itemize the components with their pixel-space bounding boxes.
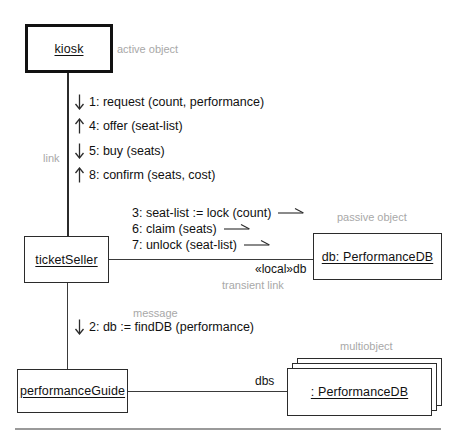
message-2: 2: db := findDB (performance) bbox=[74, 319, 254, 335]
message-8-label: 8: confirm (seats, cost) bbox=[89, 168, 215, 182]
annotation-link: link bbox=[43, 152, 60, 164]
arrow-up-icon bbox=[74, 167, 85, 183]
arrow-down-icon bbox=[74, 319, 85, 335]
arrow-down-icon bbox=[74, 143, 85, 159]
link-performanceguide-dbs bbox=[127, 391, 287, 392]
annotation-transient-link: transient link bbox=[222, 279, 284, 291]
message-3-label: 3: seat-list := lock (count) bbox=[132, 206, 271, 220]
message-5-label: 5: buy (seats) bbox=[89, 144, 165, 158]
annotation-passive-object: passive object bbox=[337, 211, 407, 223]
annotation-multiobject: multiobject bbox=[340, 340, 393, 352]
uml-collaboration-diagram: kiosk ticketSeller performanceGuide db: … bbox=[0, 0, 462, 437]
message-4-label: 4: offer (seat-list) bbox=[89, 119, 183, 133]
link-label-dbs: dbs bbox=[255, 374, 274, 388]
message-1-label: 1: request (count, performance) bbox=[89, 95, 264, 109]
message-4: 4: offer (seat-list) bbox=[74, 118, 183, 134]
object-performancedb-multiobject-label: : PerformanceDB bbox=[311, 385, 408, 399]
arrow-right-icon bbox=[224, 224, 250, 234]
footer-divider bbox=[15, 428, 441, 430]
object-performancedb-multiobject[interactable]: : PerformanceDB bbox=[287, 368, 432, 416]
object-performanceguide[interactable]: performanceGuide bbox=[17, 369, 128, 413]
message-7: 7: unlock (seat-list) bbox=[132, 238, 270, 252]
link-ticketseller-performanceguide bbox=[67, 283, 68, 369]
annotation-message: message bbox=[133, 307, 178, 319]
link-kiosk-ticketseller bbox=[67, 72, 69, 237]
message-7-label: 7: unlock (seat-list) bbox=[132, 238, 237, 252]
arrow-down-icon bbox=[74, 94, 85, 110]
object-kiosk[interactable]: kiosk bbox=[25, 24, 113, 73]
object-db-performancedb[interactable]: db: PerformanceDB bbox=[313, 233, 442, 280]
link-ticketseller-db bbox=[108, 259, 314, 260]
annotation-active-object: active object bbox=[117, 43, 178, 55]
message-6-label: 6: claim (seats) bbox=[132, 222, 217, 236]
message-5: 5: buy (seats) bbox=[74, 143, 165, 159]
message-8: 8: confirm (seats, cost) bbox=[74, 167, 215, 183]
link-label-local-db: «local»db bbox=[255, 262, 306, 276]
object-ticketseller[interactable]: ticketSeller bbox=[24, 236, 109, 283]
arrow-right-icon bbox=[278, 208, 304, 218]
message-1: 1: request (count, performance) bbox=[74, 94, 264, 110]
message-3: 3: seat-list := lock (count) bbox=[132, 206, 304, 220]
arrow-right-icon bbox=[244, 240, 270, 250]
arrow-up-icon bbox=[74, 118, 85, 134]
object-performanceguide-label: performanceGuide bbox=[20, 384, 125, 398]
message-6: 6: claim (seats) bbox=[132, 222, 250, 236]
message-2-label: 2: db := findDB (performance) bbox=[89, 320, 254, 334]
object-db-performancedb-label: db: PerformanceDB bbox=[322, 250, 433, 264]
object-ticketseller-label: ticketSeller bbox=[35, 253, 97, 267]
object-kiosk-label: kiosk bbox=[55, 42, 84, 56]
